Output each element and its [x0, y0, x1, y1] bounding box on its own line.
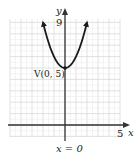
y-tick-label: 9	[56, 17, 62, 28]
y-axis-arrow-icon	[62, 8, 68, 15]
axis-of-symmetry-label: x = 0	[56, 143, 83, 154]
vertex-label: V(0, 5)	[33, 69, 65, 79]
x-axis-label: x	[128, 127, 134, 138]
curve-arrow-left-icon	[41, 21, 47, 28]
x-tick-label: 5	[117, 128, 123, 139]
y-axis-label: y	[55, 5, 62, 16]
curve-arrow-right-icon	[83, 21, 89, 28]
parabola-chart: y 9 V(0, 5) 5 x x = 0	[0, 0, 139, 157]
